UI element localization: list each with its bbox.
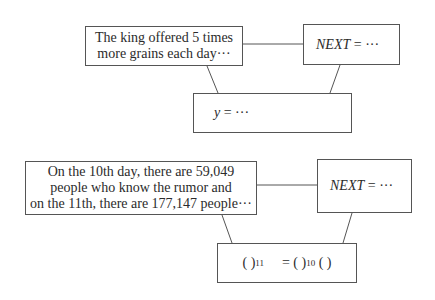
connector-story2-formula2 — [222, 215, 232, 243]
connector-next2-formula2 — [343, 213, 352, 243]
story-box-rumor: On the 10th day, there are 59,049 people… — [25, 161, 257, 215]
formula-box-2: ( )11 = ( )10 ( ) — [217, 243, 357, 283]
story-line: people who know the rumor and — [50, 180, 232, 196]
next-expression: = ··· — [350, 37, 379, 53]
lhs-base: ( ) — [242, 255, 255, 271]
next-variable: NEXT — [316, 37, 350, 53]
next-variable: NEXT — [330, 178, 364, 194]
connector-story1-formula1 — [207, 66, 218, 93]
rhs-base: = ( ) — [282, 255, 306, 271]
next-box-1: NEXT = ··· — [303, 24, 400, 65]
next-box-2: NEXT = ··· — [317, 159, 412, 213]
story-box-king: The king offered 5 times more grains eac… — [85, 26, 243, 66]
connector-next1-formula1 — [330, 65, 340, 93]
story-line: The king offered 5 times — [95, 30, 233, 46]
formula-box-1: y = ··· — [193, 93, 352, 133]
rhs-tail: ( ) — [315, 255, 331, 271]
story-line: on the 11th, there are 177,147 people··· — [30, 196, 252, 212]
story-line: On the 10th day, there are 59,049 — [48, 164, 234, 180]
story-line: more grains each day··· — [97, 46, 230, 62]
formula-expression: = ··· — [220, 105, 249, 121]
next-expression: = ··· — [364, 178, 393, 194]
